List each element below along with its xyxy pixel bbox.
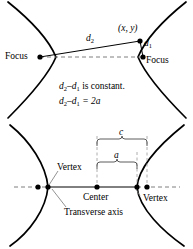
vertex-right-dot <box>134 184 139 189</box>
top-diagram-panel: Focus Focus (x, y) d2 d1 d2–d1 is consta… <box>0 0 193 122</box>
d1-subscript: 1 <box>149 42 152 49</box>
leader-transverse-axis <box>52 189 66 207</box>
d1-label: d1 <box>144 39 152 49</box>
focus-right-label: Focus <box>146 56 169 66</box>
brace-c-label: c <box>119 128 123 138</box>
focus-right-dot <box>144 184 149 189</box>
point-xy-label: (x, y) <box>118 24 138 34</box>
vertex-left-dot <box>45 184 50 189</box>
eq2-tail: = 2a <box>80 96 101 106</box>
equation-two-a: d2–d1 = 2a <box>59 97 100 107</box>
transverse-axis-label: Transverse axis <box>64 208 123 218</box>
vertex-right-label: Vertex <box>143 194 168 204</box>
hyperbola-left-branch <box>10 125 48 246</box>
hyperbola-figure: Focus Focus (x, y) d2 d1 d2–d1 is consta… <box>0 0 193 249</box>
center-dot <box>94 184 99 189</box>
brace-a-label: a <box>114 151 119 161</box>
center-label: Center <box>83 193 108 203</box>
hyperbola-right-branch <box>137 125 184 246</box>
focus-left-dot <box>37 54 42 59</box>
eq1-tail: is constant. <box>80 81 125 91</box>
brace-a <box>97 159 137 169</box>
point-xy-dot <box>137 38 142 43</box>
d2-label: d2 <box>86 34 94 44</box>
vertex-left-label: Vertex <box>57 163 82 173</box>
d2-subscript: 2 <box>91 37 94 44</box>
leader-vertex-left <box>49 171 58 185</box>
focus-right-dot <box>140 54 145 59</box>
focus-left-dot <box>35 184 40 189</box>
brace-c <box>97 136 147 146</box>
focus-left-label: Focus <box>5 52 28 62</box>
bottom-diagram-panel: c a Vertex Center Transverse axis Vertex <box>0 122 193 249</box>
bottom-diagram-canvas <box>0 122 193 249</box>
equation-constant: d2–d1 is constant. <box>59 82 125 92</box>
